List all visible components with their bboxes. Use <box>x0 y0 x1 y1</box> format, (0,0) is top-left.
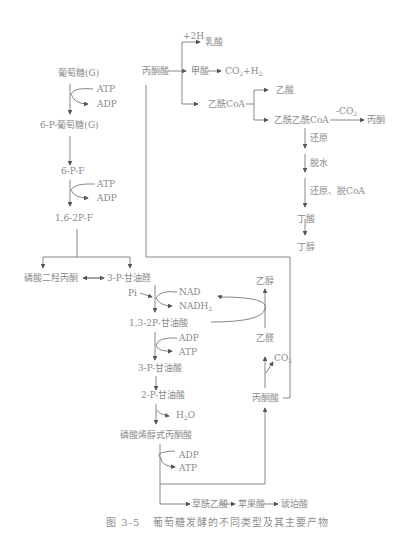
adp-label: ADP <box>97 99 117 110</box>
oxaloacetate-label: 草酰乙酸 <box>192 499 228 510</box>
caption-number: 图 3-5 <box>106 517 140 528</box>
atp-label: ATP <box>179 347 197 358</box>
pi-label: Pi <box>128 288 137 299</box>
pyruvate-label: 丙酮酸 <box>142 66 169 77</box>
lactate-label: 乳酸 <box>205 37 223 48</box>
pg3-label: 3-P-甘油酸 <box>138 363 182 374</box>
glucose-label: 葡萄糖(G) <box>58 68 99 79</box>
succinate-label: 琥珀酸 <box>281 499 308 510</box>
step-dehydrate-label: 脱水 <box>310 158 328 169</box>
atp-label: ATP <box>179 463 197 474</box>
step-reduce-decoa-label: 还原、脱CoA <box>310 186 365 197</box>
formate-label: 甲酸 <box>191 66 209 77</box>
acetate-label: 乙酸 <box>276 85 294 96</box>
figure-caption: 图 3-5 葡萄糖发酵的不同类型及其主要产物 <box>106 514 329 529</box>
acetyl-coa-label: 乙酰CoA <box>208 99 245 110</box>
f6p-label: 6-P-F <box>61 166 85 177</box>
pep-label: 磷酸烯醇式丙酮酸 <box>120 430 192 441</box>
g6p-label: 6-P-葡萄糖(G) <box>40 120 99 131</box>
nad-label: NAD <box>179 287 201 298</box>
step-reduce-label: 还原 <box>310 133 328 144</box>
f16bp-label: 1,6-2P-F <box>55 213 93 224</box>
adp-label: ADP <box>97 193 117 204</box>
dhap-label: 磷酸二羟丙酮 <box>24 273 78 284</box>
acetoacetyl-coa-label: 乙酰乙酰CoA <box>274 115 329 126</box>
co2-label: CO2 <box>274 353 292 366</box>
atp-label: ATP <box>97 84 115 95</box>
adp-label: ADP <box>179 450 199 461</box>
atp-label: ATP <box>97 179 115 190</box>
co2-h2-label: CO2+H2 <box>225 66 262 79</box>
glucose-fermentation-diagram: 葡萄糖(G) ATP ADP 6-P-葡萄糖(G) 6-P-F ATP ADP … <box>0 0 408 546</box>
acetone-label: 丙酮 <box>367 115 385 126</box>
adp-label: ADP <box>179 333 199 344</box>
plus-2h-label: +2H <box>183 31 204 42</box>
butanol-label: 丁醇 <box>297 242 315 253</box>
h2o-label: H2O <box>176 410 195 423</box>
g3p-label: 3-P-甘油醛 <box>107 273 151 284</box>
nadh2-label: NADH2 <box>179 301 212 314</box>
bpg-label: 1,3-2P-甘油酸 <box>129 318 188 329</box>
pyruvate-label: 丙酮酸 <box>252 393 279 404</box>
caption-text: 葡萄糖发酵的不同类型及其主要产物 <box>153 517 329 528</box>
malate-label: 苹果酸 <box>238 499 265 510</box>
minus-co2-label: -CO2 <box>336 106 357 119</box>
ethanol-label: 乙醇 <box>256 276 274 287</box>
acetaldehyde-label: 乙醛 <box>256 333 274 344</box>
pg2-label: 2-P-甘油酸 <box>141 390 185 401</box>
butyrate-label: 丁酸 <box>297 214 315 225</box>
